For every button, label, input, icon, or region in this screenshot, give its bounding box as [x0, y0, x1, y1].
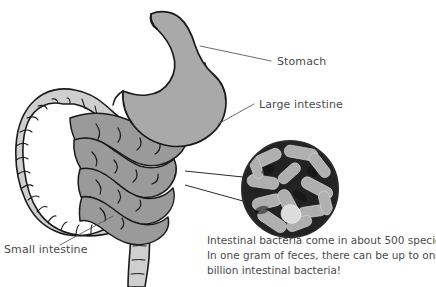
bacteria-caption: Intestinal bacteria come in about 500 sp… — [207, 233, 435, 278]
caption-line-2: In one gram of feces, there can be up to… — [207, 248, 435, 263]
stomach-leader-line — [200, 46, 271, 61]
caption-line-3: billion intestinal bacteria! — [207, 263, 435, 278]
label-large-intestine: Large intestine — [259, 98, 343, 111]
caption-line-1: Intestinal bacteria come in about 500 sp… — [207, 233, 435, 248]
bacteria-micrograph-inset — [242, 141, 338, 237]
label-stomach: Stomach — [277, 55, 326, 68]
inset-callout-lines — [185, 171, 243, 201]
label-small-intestine: Small intestine — [4, 243, 88, 256]
digestive-system-figure: Stomach Large intestine Small intestine … — [0, 0, 436, 287]
